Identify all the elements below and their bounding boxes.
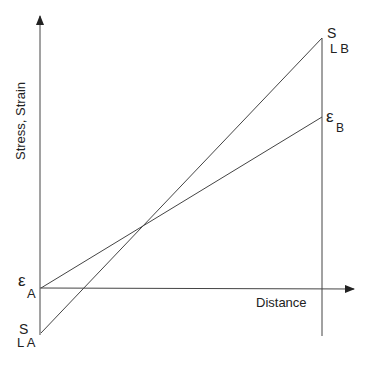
x-axis — [40, 288, 354, 289]
strain-line — [41, 117, 322, 288]
stress-lb-subscript: L B — [330, 42, 349, 55]
epsilon-a-subscript: A — [27, 287, 36, 300]
x-axis-label: Distance — [256, 296, 307, 309]
epsilon-b-subscript: B — [336, 122, 344, 134]
epsilon-b-symbol: ε — [326, 108, 334, 125]
stress-la-subscript: L A — [17, 336, 35, 349]
stress-la-symbol: S — [19, 322, 28, 336]
y-axis-label: Stress, Strain — [14, 82, 27, 160]
diagram-canvas — [0, 0, 372, 365]
epsilon-a-symbol: ε — [18, 272, 26, 289]
stress-lb-symbol: S — [327, 26, 336, 40]
